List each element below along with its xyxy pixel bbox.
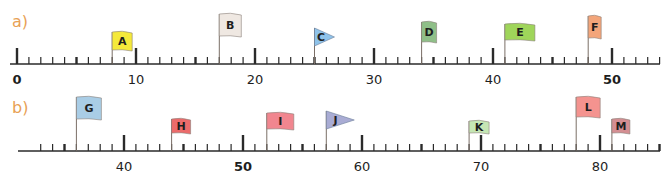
flag-i: I xyxy=(267,112,294,151)
flag-letter: M xyxy=(615,120,626,133)
tick-label: 50 xyxy=(234,159,252,174)
flag-letter: G xyxy=(84,102,93,115)
flag-b: B xyxy=(219,13,241,64)
tick-label: 0 xyxy=(12,72,21,87)
number-line-a: 01020304050ABCDEF xyxy=(10,13,660,87)
tick-label: 40 xyxy=(485,72,502,87)
tick-label: 40 xyxy=(116,159,133,174)
part-a-label: a) xyxy=(12,12,28,31)
number-line-diagram: a) b) 01020304050ABCDEF4050607080GHIJKLM xyxy=(0,0,671,181)
flag-k: K xyxy=(469,120,489,151)
flag-a: A xyxy=(112,31,132,64)
flag-letter: I xyxy=(278,115,282,128)
flag-letter: C xyxy=(317,31,325,44)
tick-label: 50 xyxy=(603,72,621,87)
flag-e: E xyxy=(505,23,535,64)
flag-letter: J xyxy=(332,114,337,127)
flag-h: H xyxy=(172,118,191,151)
tick-label: 30 xyxy=(366,72,383,87)
number-lines: 01020304050ABCDEF4050607080GHIJKLM xyxy=(0,0,671,181)
flag-letter: B xyxy=(226,19,234,32)
flag-letter: E xyxy=(516,26,524,39)
tick-label: 80 xyxy=(592,159,609,174)
flag-g: G xyxy=(76,96,101,151)
flag-letter: L xyxy=(585,101,592,114)
flag-letter: H xyxy=(176,120,185,133)
flag-pennant xyxy=(326,111,354,129)
flag-l: L xyxy=(576,96,600,151)
part-b-label: b) xyxy=(12,98,28,117)
flag-m: M xyxy=(612,118,630,151)
tick-label: 60 xyxy=(354,159,371,174)
flag-letter: D xyxy=(425,26,434,39)
flag-letter: K xyxy=(475,121,484,134)
number-line-b: 4050607080GHIJKLM xyxy=(18,96,660,174)
flag-letter: A xyxy=(118,35,127,48)
flag-f: F xyxy=(588,15,601,64)
flag-letter: F xyxy=(591,21,599,34)
flag-c: C xyxy=(315,28,335,64)
tick-label: 70 xyxy=(473,159,490,174)
tick-label: 20 xyxy=(247,72,264,87)
tick-label: 10 xyxy=(128,72,145,87)
